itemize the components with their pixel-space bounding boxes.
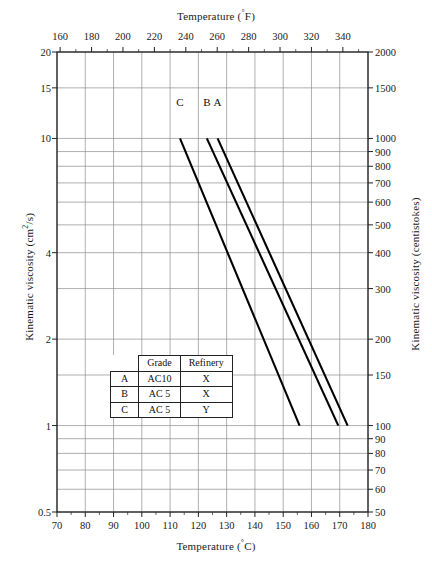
legend-cell-refinery: Y <box>180 402 232 418</box>
legend-header-row: Grade Refinery <box>111 356 233 372</box>
legend-row: CAC 5Y <box>111 402 233 418</box>
ytick-label-right-150: 150 <box>375 370 391 381</box>
ytick-label-right-600: 600 <box>375 197 391 208</box>
ytick-label-right-200: 200 <box>375 334 391 345</box>
ytick-label-left-15: 15 <box>19 82 51 93</box>
xtick-label-f-320: 320 <box>304 31 320 42</box>
xtick-label-f-260: 260 <box>209 31 225 42</box>
ytick-label-right-70: 70 <box>375 465 386 476</box>
xtick-label-f-340: 340 <box>335 31 351 42</box>
xtick-label-f-220: 220 <box>147 31 163 42</box>
legend-cell-key: B <box>111 387 139 403</box>
ytick-label-left-2: 2 <box>19 334 51 345</box>
curve-label-A: A <box>214 96 222 108</box>
ytick-label-right-1000: 1000 <box>375 133 396 144</box>
xtick-label-c-130: 130 <box>219 520 235 531</box>
xtick-label-f-280: 280 <box>241 31 257 42</box>
legend-header-refinery: Refinery <box>180 356 232 372</box>
xtick-label-c-120: 120 <box>190 520 206 531</box>
xtick-label-c-70: 70 <box>52 520 63 531</box>
xtick-label-f-180: 180 <box>84 31 100 42</box>
legend-cell-key: C <box>111 402 139 418</box>
legend-header-grade: Grade <box>139 356 180 372</box>
xtick-label-f-200: 200 <box>115 31 131 42</box>
xtick-label-f-160: 160 <box>52 31 68 42</box>
xtick-label-c-90: 90 <box>108 520 119 531</box>
ytick-label-right-800: 800 <box>375 161 391 172</box>
ytick-label-right-80: 80 <box>375 448 386 459</box>
xtick-label-c-160: 160 <box>304 520 320 531</box>
viscosity-temperature-chart: Temperature (°F) Temperature (°C) Kinema… <box>0 0 432 562</box>
legend-cell-refinery: X <box>180 371 232 387</box>
xtick-label-f-240: 240 <box>178 31 194 42</box>
ytick-label-right-300: 300 <box>375 283 391 294</box>
xtick-label-c-80: 80 <box>80 520 91 531</box>
xtick-label-c-110: 110 <box>162 520 177 531</box>
legend-row: AAC10X <box>111 371 233 387</box>
ytick-label-right-1500: 1500 <box>375 82 396 93</box>
curve-label-B: B <box>203 96 210 108</box>
plot-area <box>0 0 432 562</box>
legend-row: BAC 5X <box>111 387 233 403</box>
ytick-label-left-1: 1 <box>19 420 51 431</box>
xtick-label-c-180: 180 <box>360 520 376 531</box>
ytick-label-left-0.5: 0.5 <box>19 507 51 518</box>
ytick-label-right-100: 100 <box>375 420 391 431</box>
ytick-label-right-400: 400 <box>375 247 391 258</box>
plot-frame <box>57 52 368 512</box>
ytick-label-right-2000: 2000 <box>375 47 396 58</box>
xtick-label-f-300: 300 <box>272 31 288 42</box>
ytick-label-right-500: 500 <box>375 219 391 230</box>
legend-table: Grade Refinery AAC10XBAC 5XCAC 5Y <box>110 355 233 418</box>
legend-cell-refinery: X <box>180 387 232 403</box>
ytick-label-right-50: 50 <box>375 507 386 518</box>
ytick-label-left-4: 4 <box>19 247 51 258</box>
legend-cell-grade: AC 5 <box>139 402 180 418</box>
ytick-label-right-60: 60 <box>375 484 386 495</box>
legend-cell-key: A <box>111 371 139 387</box>
ytick-label-right-90: 90 <box>375 433 386 444</box>
xtick-label-c-170: 170 <box>332 520 348 531</box>
ytick-label-left-10: 10 <box>19 133 51 144</box>
xtick-label-c-150: 150 <box>275 520 291 531</box>
legend-cell-grade: AC 5 <box>139 387 180 403</box>
ytick-label-right-700: 700 <box>375 177 391 188</box>
ytick-label-left-20: 20 <box>19 47 51 58</box>
curve-label-C: C <box>176 96 183 108</box>
legend-cell-grade: AC10 <box>139 371 180 387</box>
xtick-label-c-100: 100 <box>134 520 150 531</box>
ytick-label-right-900: 900 <box>375 146 391 157</box>
legend-corner-cell <box>111 356 139 372</box>
xtick-label-c-140: 140 <box>247 520 263 531</box>
